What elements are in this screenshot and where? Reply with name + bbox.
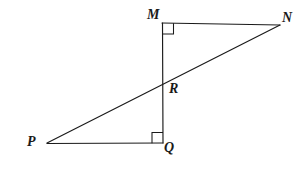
segment-PQ (47, 143, 163, 144)
vertex-label-M: M (147, 8, 159, 22)
segment-MQ (163, 23, 164, 143)
segment-MN (162, 23, 280, 25)
vertex-label-N: N (282, 11, 292, 25)
right-angle-M (163, 23, 174, 34)
vertex-label-R: R (169, 82, 178, 96)
geometry-figure: M N R P Q (0, 0, 300, 170)
geometry-canvas (0, 0, 300, 170)
vertex-label-Q: Q (164, 141, 174, 155)
right-angle-Q (152, 133, 163, 144)
vertex-label-P: P (27, 135, 36, 149)
